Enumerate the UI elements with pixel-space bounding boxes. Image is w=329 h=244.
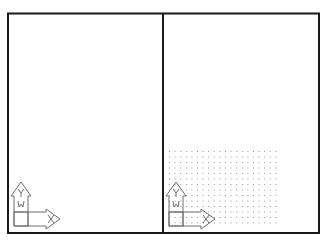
grid-dot [231,217,232,218]
grid-dot [186,184,187,185]
grid-dot [191,168,192,169]
grid-dot [247,179,248,180]
grid-dot [208,157,209,158]
grid-dot [208,201,209,202]
grid-dot [203,190,204,191]
grid-dot [225,184,226,185]
grid-dot [242,201,243,202]
grid-dot [203,157,204,158]
grid-dot [270,168,271,169]
grid-dot [225,179,226,180]
grid-dot [225,168,226,169]
grid-dot [197,184,198,185]
grid-dot [203,212,204,213]
grid-dot [186,217,187,218]
grid-dot [225,223,226,224]
grid-dot [169,151,170,152]
grid-dot [180,157,181,158]
grid-dot [203,195,204,196]
grid-dot [214,157,215,158]
grid-dot [175,217,176,218]
grid-dot [259,201,260,202]
grid-dot [225,212,226,213]
grid-dot [275,195,276,196]
grid-dot [197,223,198,224]
grid-dot [180,206,181,207]
grid-dot [259,151,260,152]
grid-dot [253,162,254,163]
viewport-left-area[interactable] [9,14,162,232]
grid-dot [253,173,254,174]
grid-dot [208,168,209,169]
grid-dot [231,212,232,213]
grid-dot [259,206,260,207]
grid-dot [242,195,243,196]
grid-dot [214,179,215,180]
grid-dot [214,151,215,152]
grid-dot [231,184,232,185]
grid-dot [208,212,209,213]
grid-dot [242,179,243,180]
grid-dot [219,157,220,158]
grid-dot [203,151,204,152]
grid-dot [197,173,198,174]
grid-dot [231,179,232,180]
grid-dot [203,184,204,185]
grid-dot [236,212,237,213]
grid-dot [219,168,220,169]
grid-dot [169,157,170,158]
grid-dot [191,157,192,158]
grid-dot [225,173,226,174]
grid-dot [225,151,226,152]
grid-dot [214,173,215,174]
grid-dot [180,195,181,196]
grid-dot [169,179,170,180]
grid-dot [264,168,265,169]
grid-dot [253,217,254,218]
viewport-right-area[interactable] [164,14,318,232]
grid-dot [242,157,243,158]
grid-dot [259,195,260,196]
grid-dot [247,217,248,218]
grid-dot [236,190,237,191]
grid-dot [247,184,248,185]
viewport-left[interactable] [9,14,162,232]
grid-dot [259,179,260,180]
grid-dot [225,217,226,218]
grid-dot [208,195,209,196]
grid-dot [247,190,248,191]
grid-dot [253,223,254,224]
grid-dot [270,184,271,185]
grid-dot [180,223,181,224]
grid-dot [197,151,198,152]
grid-dot [186,173,187,174]
grid-dot [191,206,192,207]
grid-dot [264,217,265,218]
grid-dot [175,201,176,202]
grid-dot [275,151,276,152]
grid-dot [275,168,276,169]
grid-dot [231,173,232,174]
grid-dot [175,179,176,180]
grid-dot [236,184,237,185]
grid-dot [275,157,276,158]
grid-dot [186,168,187,169]
grid-dot [191,151,192,152]
grid-dot [197,190,198,191]
grid-dot [264,223,265,224]
grid-dot [253,184,254,185]
drawing-canvas[interactable] [0,0,329,244]
grid-dot [253,201,254,202]
grid-dot [186,151,187,152]
grid-dot [247,206,248,207]
grid-dot [197,206,198,207]
grid-dot [214,168,215,169]
grid-dot [175,162,176,163]
grid-dot [259,184,260,185]
grid-dot [247,157,248,158]
grid-dot [203,206,204,207]
grid-dot [225,157,226,158]
grid-dot [264,151,265,152]
grid-dot [214,223,215,224]
viewport-right[interactable] [164,14,318,232]
